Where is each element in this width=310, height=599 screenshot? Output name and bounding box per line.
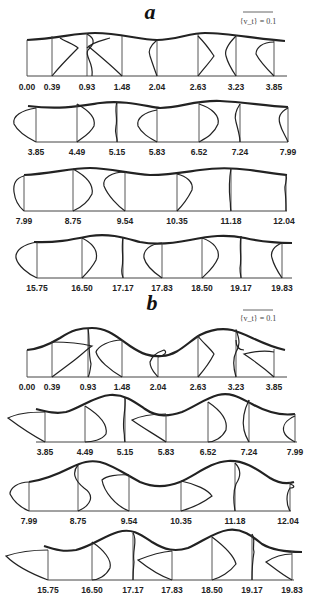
scale-bar-b: {v_t} = 0.1 [240,310,276,323]
row-a1-ticks: 0.00 0.39 0.93 1.48 2.04 2.63 3.23 3.85 [19,82,283,92]
tick-label: 6.52 [191,147,208,157]
tick-label: 5.83 [149,147,166,157]
tick-label: 2.04 [149,82,166,92]
tick-label: 18.50 [191,283,213,293]
tick-label: 3.85 [266,82,283,92]
tick-label: 17.17 [112,283,134,293]
tick-label: 1.48 [114,382,131,392]
panel-b-row-3: 7.99 8.75 9.54 10.35 11.18 12.04 [10,461,299,526]
tick-label: 12.04 [277,516,299,526]
tick-label: 7.99 [21,516,38,526]
panel-a: a {v_t} = 0.1 0.00 0.39 [14,0,297,293]
tick-label: 8.75 [70,516,87,526]
tick-label: 0.39 [44,82,61,92]
panel-b-label: b [147,290,158,315]
tick-label: 7.99 [16,216,33,226]
scale-bar-a-label: {v_t} = 0.1 [240,17,276,26]
row-b3-ticks: 7.99 8.75 9.54 10.35 11.18 12.04 [21,516,299,526]
row-b4-ticks: 15.75 16.50 17.17 17.83 18.50 19.17 19.8… [37,585,303,595]
tick-label: 3.23 [228,82,245,92]
row-a3-ticks: 7.99 8.75 9.54 10.35 11.18 12.04 [16,216,295,226]
tick-label: 19.83 [281,585,303,595]
tick-label: 7.24 [232,147,249,157]
tick-label: 10.35 [170,516,192,526]
tick-label: 6.52 [200,447,217,457]
tick-label: 17.83 [161,585,183,595]
tick-label: 16.50 [81,585,103,595]
panel-b-row-2: 3.85 4.49 5.15 5.83 6.52 7.24 7.99 [8,394,304,457]
tick-label: 17.17 [122,585,144,595]
tick-label: 7.99 [287,447,304,457]
tick-label: 0.00 [19,82,36,92]
tick-label: 8.75 [65,216,82,226]
tick-label: 16.50 [71,283,93,293]
tick-label: 2.04 [150,382,167,392]
tick-label: 19.83 [271,283,293,293]
tick-label: 7.99 [280,147,297,157]
tick-label: 10.35 [166,216,188,226]
row-a4-ticks: 15.75 16.50 17.17 17.83 18.50 19.17 19.8… [26,283,293,293]
panel-a-row-1: 0.00 0.39 0.93 1.48 2.04 2.63 3.23 3.85 [19,33,287,92]
tick-label: 2.63 [190,382,207,392]
row-b1-ticks: 0.00 0.39 0.93 1.48 2.04 2.63 3.23 3.85 [19,382,283,392]
velocity-profile-figure: a {v_t} = 0.1 0.00 0.39 [0,0,310,599]
scale-bar-b-label: {v_t} = 0.1 [240,314,276,323]
tick-label: 5.15 [117,447,134,457]
tick-label: 12.04 [273,216,295,226]
tick-label: 4.49 [69,147,86,157]
panel-b-row-1: 0.00 0.39 0.93 1.48 2.04 2.63 3.23 3.85 [19,328,287,392]
panel-a-row-4: 15.75 16.50 17.17 17.83 18.50 19.17 19.8… [16,235,293,293]
panel-a-row-3: 7.99 8.75 9.54 10.35 11.18 12.04 [14,168,295,226]
tick-label: 0.93 [80,382,97,392]
scale-bar-a: {v_t} = 0.1 [240,12,276,26]
tick-label: 11.18 [225,516,246,526]
tick-label: 3.85 [28,147,45,157]
tick-label: 1.48 [114,82,131,92]
panel-a-label: a [145,0,156,24]
tick-label: 2.63 [190,82,207,92]
tick-label: 0.39 [44,382,61,392]
tick-label: 9.54 [121,516,138,526]
tick-label: 4.49 [77,447,94,457]
tick-label: 11.18 [221,216,242,226]
tick-label: 15.75 [37,585,59,595]
tick-label: 0.93 [79,82,96,92]
panel-b-row-4: 15.75 16.50 17.17 17.83 18.50 19.17 19.8… [6,530,303,595]
tick-label: 5.15 [109,147,126,157]
panel-a-row-2: 3.85 4.49 5.15 5.83 6.52 7.24 7.99 [14,101,297,157]
tick-label: 0.00 [19,382,36,392]
tick-label: 9.54 [117,216,134,226]
row-b2-ticks: 3.85 4.49 5.15 5.83 6.52 7.24 7.99 [37,447,304,457]
tick-label: 19.17 [230,283,252,293]
tick-label: 3.85 [266,382,283,392]
tick-label: 3.23 [228,382,245,392]
row-a2-ticks: 3.85 4.49 5.15 5.83 6.52 7.24 7.99 [28,147,297,157]
panel-b: b {v_t} = 0.1 0.00 [6,290,304,595]
tick-label: 19.17 [241,585,263,595]
tick-label: 3.85 [37,447,54,457]
tick-label: 5.83 [158,447,175,457]
tick-label: 7.24 [241,447,258,457]
tick-label: 18.50 [201,585,223,595]
tick-label: 15.75 [26,283,48,293]
